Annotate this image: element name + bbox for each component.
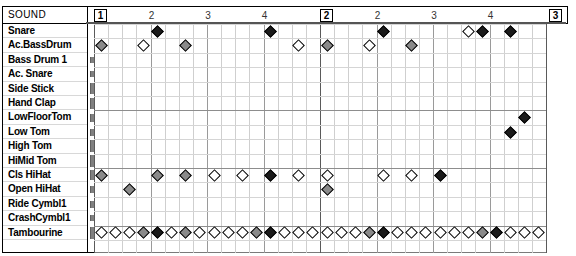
- note-diamond[interactable]: [476, 226, 489, 239]
- note-diamond[interactable]: [448, 226, 461, 239]
- note-diamond[interactable]: [518, 111, 531, 124]
- note-diamond[interactable]: [236, 169, 249, 182]
- grid-horizontal-line: [94, 53, 546, 54]
- grid-horizontal-line: [94, 226, 546, 227]
- note-diamond[interactable]: [504, 25, 517, 38]
- track-name-row[interactable]: Cls HiHat: [3, 168, 87, 182]
- track-name-row[interactable]: Side Stick: [3, 82, 87, 96]
- note-diamond[interactable]: [137, 226, 150, 239]
- grid-horizontal-line: [94, 38, 546, 39]
- note-diamond[interactable]: [292, 39, 305, 52]
- ruler-bar-marker: 1: [94, 9, 107, 22]
- note-diamond[interactable]: [405, 226, 418, 239]
- ruler-beat-label: 4: [258, 9, 272, 22]
- note-diamond[interactable]: [321, 183, 334, 196]
- note-diamond[interactable]: [151, 25, 164, 38]
- ruler-beat-label: 3: [201, 9, 215, 22]
- note-diamond[interactable]: [307, 226, 320, 239]
- track-name-row[interactable]: Low Tom: [3, 125, 87, 139]
- note-diamond[interactable]: [264, 226, 277, 239]
- note-diamond[interactable]: [292, 226, 305, 239]
- note-diamond[interactable]: [405, 39, 418, 52]
- note-diamond[interactable]: [250, 226, 263, 239]
- note-diamond[interactable]: [533, 226, 546, 239]
- note-diamond[interactable]: [151, 226, 164, 239]
- note-diamond[interactable]: [165, 226, 178, 239]
- note-diamond[interactable]: [236, 226, 249, 239]
- note-diamond[interactable]: [476, 25, 489, 38]
- track-name-row[interactable]: Hand Clap: [3, 96, 87, 110]
- note-diamond[interactable]: [95, 39, 108, 52]
- grid-horizontal-line: [94, 110, 546, 111]
- note-grid-area[interactable]: [94, 24, 546, 253]
- note-diamond[interactable]: [405, 169, 418, 182]
- track-name-row[interactable]: HiMid Tom: [3, 154, 87, 168]
- note-diamond[interactable]: [179, 169, 192, 182]
- grid-horizontal-line: [94, 96, 546, 97]
- grid-horizontal-line: [94, 168, 546, 169]
- note-diamond[interactable]: [194, 226, 207, 239]
- track-name-row[interactable]: CrashCymbl1: [3, 211, 87, 225]
- note-diamond[interactable]: [321, 39, 334, 52]
- note-diamond[interactable]: [321, 169, 334, 182]
- note-diamond[interactable]: [349, 226, 362, 239]
- note-diamond[interactable]: [377, 169, 390, 182]
- track-name-row[interactable]: Snare: [3, 24, 87, 38]
- note-diamond[interactable]: [95, 226, 108, 239]
- track-name-row[interactable]: High Tom: [3, 139, 87, 153]
- note-grid[interactable]: [94, 24, 568, 253]
- note-diamond[interactable]: [462, 25, 475, 38]
- note-diamond[interactable]: [518, 226, 531, 239]
- ruler-bar-marker: 2: [320, 9, 333, 22]
- note-diamond[interactable]: [434, 226, 447, 239]
- track-name-row[interactable]: LowFloorTom: [3, 110, 87, 124]
- grid-horizontal-line: [94, 139, 546, 140]
- grid-horizontal-line: [94, 154, 546, 155]
- track-name-row[interactable]: Ride Cymbl1: [3, 197, 87, 211]
- track-name-row[interactable]: Ac. Snare: [3, 67, 87, 81]
- grid-horizontal-line: [94, 125, 546, 126]
- note-diamond[interactable]: [123, 183, 136, 196]
- sound-column-header: SOUND: [2, 6, 88, 24]
- note-diamond[interactable]: [377, 25, 390, 38]
- track-name-row[interactable]: Bass Drum 1: [3, 53, 87, 67]
- note-diamond[interactable]: [264, 25, 277, 38]
- ruler-bar-marker: 3: [549, 9, 562, 22]
- note-diamond[interactable]: [321, 226, 334, 239]
- note-diamond[interactable]: [490, 226, 503, 239]
- grid-horizontal-line: [94, 182, 546, 183]
- note-diamond[interactable]: [434, 169, 447, 182]
- grid-horizontal-line: [94, 197, 546, 198]
- note-diamond[interactable]: [95, 169, 108, 182]
- note-diamond[interactable]: [222, 226, 235, 239]
- note-diamond[interactable]: [504, 126, 517, 139]
- grid-horizontal-line: [94, 211, 546, 212]
- note-diamond[interactable]: [137, 39, 150, 52]
- note-diamond[interactable]: [264, 169, 277, 182]
- note-diamond[interactable]: [462, 226, 475, 239]
- note-diamond[interactable]: [292, 169, 305, 182]
- track-name-row[interactable]: Ac.BassDrum: [3, 38, 87, 52]
- note-diamond[interactable]: [123, 226, 136, 239]
- track-name-row[interactable]: Tambourine: [3, 226, 87, 240]
- grid-horizontal-line: [94, 240, 546, 241]
- note-diamond[interactable]: [377, 226, 390, 239]
- note-diamond[interactable]: [335, 226, 348, 239]
- note-diamond[interactable]: [151, 169, 164, 182]
- note-diamond[interactable]: [179, 226, 192, 239]
- note-diamond[interactable]: [208, 169, 221, 182]
- grid-vertical-line: [546, 24, 547, 253]
- note-diamond[interactable]: [363, 226, 376, 239]
- note-diamond[interactable]: [363, 39, 376, 52]
- note-diamond[interactable]: [420, 226, 433, 239]
- track-name-row[interactable]: Open HiHat: [3, 182, 87, 196]
- note-diamond[interactable]: [109, 226, 122, 239]
- track-name-column[interactable]: SnareAc.BassDrumBass Drum 1Ac. SnareSide…: [2, 24, 88, 253]
- note-diamond[interactable]: [391, 226, 404, 239]
- grid-horizontal-line: [94, 82, 546, 83]
- note-diamond[interactable]: [179, 39, 192, 52]
- note-diamond[interactable]: [278, 226, 291, 239]
- note-diamond[interactable]: [208, 226, 221, 239]
- grid-horizontal-line: [94, 24, 546, 25]
- note-diamond[interactable]: [504, 226, 517, 239]
